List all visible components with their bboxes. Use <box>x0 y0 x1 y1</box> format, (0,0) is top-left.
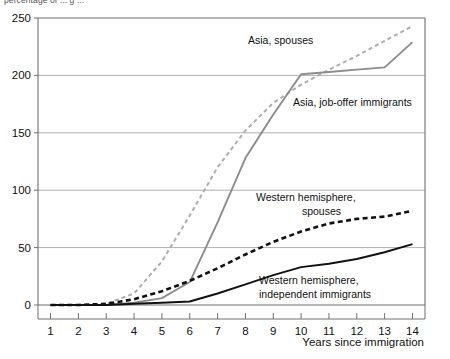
annotation-west-spouses-line2: spouses <box>302 205 341 217</box>
svg-text:9: 9 <box>270 325 276 337</box>
data-series-group <box>51 26 413 305</box>
x-axis-title: Years since immigration <box>302 336 424 348</box>
svg-text:4: 4 <box>131 325 138 337</box>
svg-text:3: 3 <box>103 325 109 337</box>
series-line-1 <box>51 42 413 305</box>
series-line-0 <box>51 26 413 305</box>
svg-text:7: 7 <box>214 325 220 337</box>
svg-text:1: 1 <box>47 325 53 337</box>
annotation-asia-spouses: Asia, spouses <box>248 34 313 46</box>
annotation-west-independent-line1: Western hemisphere, <box>259 274 359 286</box>
annotation-west-independent-line2: independent immigrants <box>259 288 371 300</box>
annotation-asia-joboffer: Asia, job-offer immigrants <box>293 96 412 108</box>
svg-text:200: 200 <box>12 69 31 81</box>
svg-text:5: 5 <box>159 325 165 337</box>
annotation-west-spouses-line1: Western hemisphere, <box>256 191 356 203</box>
chart-figure: percentage of ... g ... 050100150200250 … <box>0 0 450 359</box>
x-tick-marks <box>51 313 413 319</box>
svg-text:50: 50 <box>18 242 31 254</box>
svg-text:8: 8 <box>242 325 248 337</box>
y-tick-labels: 050100150200250 <box>12 12 38 311</box>
svg-text:2: 2 <box>75 325 81 337</box>
svg-text:250: 250 <box>12 12 31 24</box>
svg-text:100: 100 <box>12 184 31 196</box>
svg-text:0: 0 <box>25 299 31 311</box>
svg-text:150: 150 <box>12 127 31 139</box>
svg-text:6: 6 <box>187 325 193 337</box>
plot-frame <box>38 18 425 319</box>
chart-svg: 050100150200250 1234567891011121314 Year… <box>0 0 450 359</box>
